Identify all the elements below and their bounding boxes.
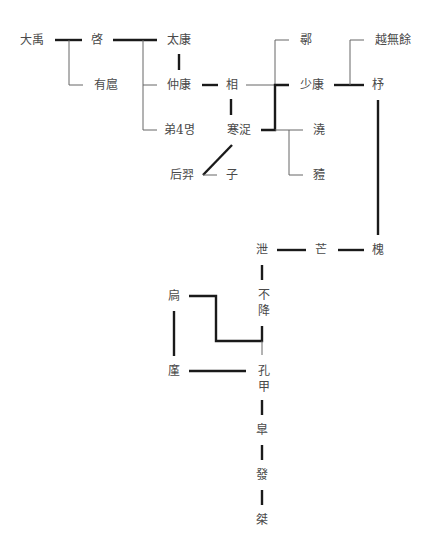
node-hanzhuo: 寒浞 — [227, 123, 251, 137]
node-yi: 豷 — [313, 168, 325, 182]
node-xiang: 相 — [226, 78, 238, 92]
node-kongjia: 孔甲 — [255, 364, 269, 396]
node-houyi: 后羿 — [170, 168, 194, 182]
node-xun: 鄩 — [300, 33, 312, 47]
node-xie: 泄 — [256, 243, 268, 257]
node-ao: 澆 — [313, 123, 325, 137]
connector-lines — [0, 0, 436, 549]
node-zi: 子 — [226, 168, 238, 182]
node-brothers4: 弟4명 — [164, 123, 195, 137]
node-bujiang: 不降 — [255, 288, 269, 320]
node-huai: 槐 — [372, 243, 384, 257]
node-mang: 芒 — [315, 243, 327, 257]
node-taikang: 太康 — [167, 33, 191, 47]
node-youhu: 有扈 — [94, 78, 118, 92]
node-yuewuyu: 越無餘 — [375, 33, 411, 47]
node-zhongkang: 仲康 — [167, 78, 191, 92]
node-zhu: 杼 — [372, 78, 384, 92]
node-jie: 桀 — [256, 513, 268, 527]
genealogy-diagram: 大禹 啓 有扈 太康 仲康 弟4명 相 寒浞 后羿 子 鄩 少康 澆 豷 越無餘… — [0, 0, 436, 549]
node-shaokang: 少康 — [300, 78, 324, 92]
node-qi: 啓 — [91, 33, 103, 47]
node-gao: 皐 — [256, 423, 268, 437]
node-jin: 廑 — [168, 364, 180, 378]
node-fa: 發 — [256, 468, 268, 482]
node-dayu: 大禹 — [20, 33, 44, 47]
node-jiong: 扃 — [168, 289, 180, 303]
